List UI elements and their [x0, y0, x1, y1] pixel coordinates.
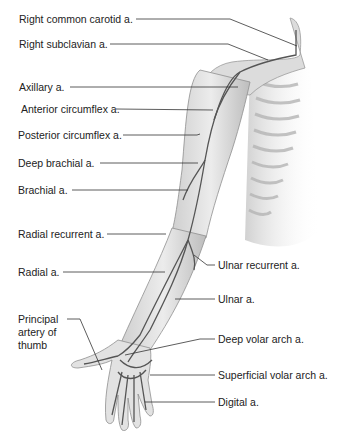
hand: [71, 340, 153, 431]
label-line-1: Principal: [18, 313, 78, 326]
label-radial: Radial a.: [18, 266, 59, 278]
label-ulnar: Ulnar a.: [218, 293, 255, 305]
rib-cage: [245, 63, 320, 247]
label-anterior-circumflex: Anterior circumflex a.: [21, 103, 120, 115]
label-line-2: artery of: [18, 326, 78, 339]
label-ulnar-recurrent: Ulnar recurrent a.: [218, 259, 300, 271]
label-deep-volar-arch: Deep volar arch a.: [218, 333, 304, 345]
label-brachial: Brachial a.: [18, 184, 68, 196]
label-digital: Digital a.: [218, 396, 259, 408]
label-line-3: thumb: [18, 339, 78, 352]
label-posterior-circumflex: Posterior circumflex a.: [18, 129, 122, 141]
label-right-subclavian: Right subclavian a.: [19, 38, 108, 50]
label-axillary: Axillary a.: [19, 81, 65, 93]
anatomy-figure: Right common carotid a. Right subclavian…: [0, 0, 339, 437]
label-superficial-volar-arch: Superficial volar arch a.: [218, 369, 328, 381]
upper-arm: [172, 70, 250, 238]
label-principal-artery-of-thumb: Principal artery of thumb: [18, 313, 78, 352]
label-deep-brachial: Deep brachial a.: [18, 157, 94, 169]
label-right-common-carotid: Right common carotid a.: [19, 13, 133, 25]
label-radial-recurrent: Radial recurrent a.: [18, 228, 104, 240]
